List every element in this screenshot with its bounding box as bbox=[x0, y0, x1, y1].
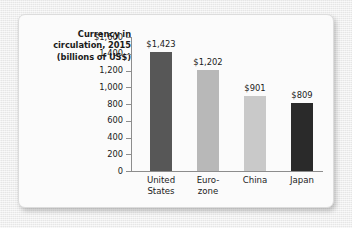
y-tick-label-wrap: 1,000 bbox=[77, 83, 123, 92]
y-tick-mark bbox=[126, 154, 131, 155]
y-tick-label-wrap: 600 bbox=[77, 116, 123, 125]
y-tick-label: 1,200 bbox=[79, 66, 123, 74]
x-axis-category-label: Japan bbox=[274, 175, 330, 186]
y-tick-label: 1,400 bbox=[79, 49, 123, 57]
y-tick-label: 200 bbox=[79, 150, 123, 158]
y-tick-mark bbox=[126, 37, 131, 38]
y-tick-label: $1,600 bbox=[79, 33, 123, 41]
y-tick-label-wrap: $1,600 bbox=[77, 33, 123, 42]
bar[interactable] bbox=[197, 70, 219, 171]
y-tick-label-wrap: 200 bbox=[77, 150, 123, 159]
x-axis-line bbox=[131, 171, 323, 172]
x-axis-category-line: zone bbox=[180, 186, 236, 197]
y-tick-label-wrap: 1,400 bbox=[77, 49, 123, 58]
bar[interactable] bbox=[244, 96, 266, 171]
y-tick-label: 0 bbox=[79, 167, 123, 175]
y-tick-label: 1,000 bbox=[79, 83, 123, 91]
y-tick-mark bbox=[126, 171, 131, 172]
y-tick-mark bbox=[126, 138, 131, 139]
y-axis-line bbox=[131, 37, 132, 171]
bar[interactable] bbox=[150, 52, 172, 171]
bar-value-label: $809 bbox=[274, 91, 330, 100]
bar[interactable] bbox=[291, 103, 313, 171]
y-tick-label: 400 bbox=[79, 133, 123, 141]
bar-chart-plot: 02004006008001,0001,2001,400$1,600 $1,42… bbox=[19, 15, 334, 208]
chart-card: Currency in circulation, 2015 (billions … bbox=[18, 14, 334, 208]
y-tick-label: 800 bbox=[79, 100, 123, 108]
y-tick-mark bbox=[126, 104, 131, 105]
y-tick-label-wrap: 400 bbox=[77, 133, 123, 142]
y-tick-mark bbox=[126, 71, 131, 72]
y-tick-mark bbox=[126, 87, 131, 88]
y-tick-mark bbox=[126, 121, 131, 122]
y-tick-label: 600 bbox=[79, 116, 123, 124]
x-axis-category-line: Japan bbox=[274, 175, 330, 186]
y-tick-label-wrap: 0 bbox=[77, 167, 123, 176]
y-tick-label-wrap: 1,200 bbox=[77, 66, 123, 75]
y-tick-mark bbox=[126, 54, 131, 55]
y-tick-label-wrap: 800 bbox=[77, 100, 123, 109]
